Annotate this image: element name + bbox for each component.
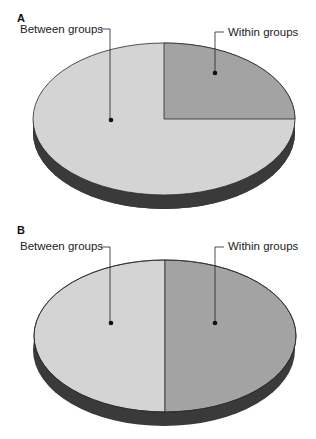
- label-between-groups-b: Between groups: [20, 240, 103, 252]
- label-between-groups-a: Between groups: [20, 23, 103, 35]
- label-within-groups-a: Within groups: [228, 26, 298, 38]
- pie-a-slice-within: [164, 43, 295, 119]
- marker-dot-between-b: [109, 321, 114, 326]
- marker-dot-between-a: [109, 118, 114, 123]
- marker-dot-within-b: [213, 321, 218, 326]
- pie-b-slice-within: [165, 260, 296, 412]
- label-within-groups-b: Within groups: [228, 240, 298, 252]
- marker-dot-within-a: [213, 71, 218, 76]
- chart-panel-a: A Between groups Within groups: [0, 0, 316, 219]
- panel-letter-b: B: [17, 224, 25, 236]
- chart-panel-b: B Between groups Within groups: [0, 219, 316, 438]
